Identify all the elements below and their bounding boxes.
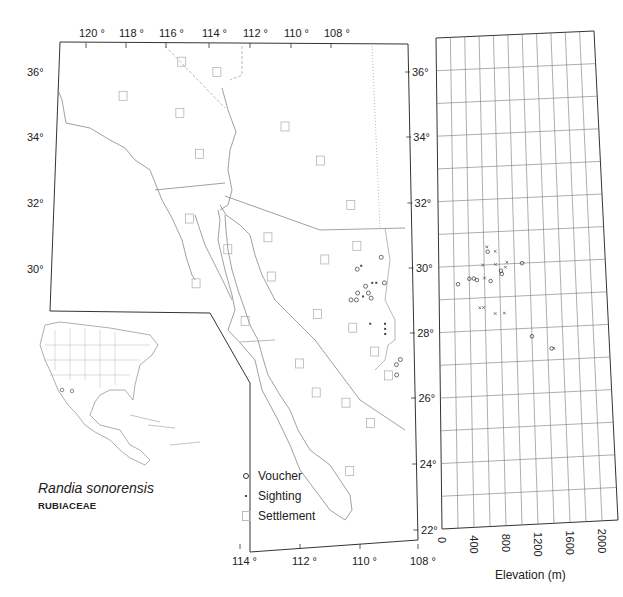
inset-outline [40,322,158,465]
inset-north-america-map [40,322,200,465]
settlement-marker [321,255,329,264]
voucher-marker [379,255,383,259]
sighting-marker [503,312,506,315]
settlement-marker [281,122,289,131]
settlement-marker [195,149,203,158]
longitude-label: 108 ° [410,555,436,567]
elevation-grid [436,31,618,529]
settlement-marker [342,398,350,407]
sighting-marker [504,266,507,269]
inset-state-lines [45,328,150,388]
voucher-circle-icon [238,473,254,479]
latitude-label: 30° [416,262,433,274]
voucher-marker [355,267,359,271]
longitude-label: 118 ° [119,27,144,39]
distribution-figure: 120 °118 °116 °114 °112 °110 °108 ° 114 … [0,0,623,597]
latitude-label: 36° [412,66,429,78]
top-longitude-labels: 120 °118 °116 °114 °112 °110 °108 ° [79,27,350,48]
latitude-label: 30° [27,263,44,275]
legend-item-voucher: Voucher [238,466,315,486]
longitude-label: 116 ° [159,27,184,39]
voucher-marker [395,373,399,377]
settlement-marker [353,241,361,250]
voucher-marker [486,250,490,254]
sonora-chihuahua-border [375,228,395,370]
voucher-marker [489,279,493,283]
legend-item-sighting: Sighting [238,486,315,506]
sighting-marker [506,261,509,264]
voucher-marker [456,282,460,286]
sighting-marker [553,347,556,350]
voucher-marker [366,291,370,295]
voucher-marker [398,358,402,362]
elevation-tick-label: 400 [468,535,480,553]
sighting-marker [360,265,362,267]
latitude-label: 34° [413,131,430,143]
settlement-marker [371,347,379,356]
legend-item-settlement: Settlement [238,506,315,526]
bottom-longitude-labels: 114 °112 °110 °108 ° [232,544,436,567]
voucher-marker [369,296,373,300]
sighting-marker [375,282,377,284]
voucher-marker [356,291,360,295]
settlement-square-icon [238,511,254,521]
legend-label: Voucher [258,469,302,483]
longitude-label: 108 ° [324,27,350,39]
utah-arizona-border [230,46,242,80]
inset-voucher [60,388,64,392]
legend-label: Sighting [258,489,301,503]
latitude-label: 34° [27,131,44,143]
settlement-marker [346,466,354,475]
sighting-marker [384,333,386,335]
sighting-marker [494,312,497,315]
family-name: RUBIACEAE [38,500,96,511]
elevation-axis-label: Elevation (m) [495,568,566,582]
elevation-tick-label: 1200 [532,532,544,556]
sighting-marker [482,306,485,309]
baja-state-border [240,340,275,342]
elevation-tick-label: 800 [500,534,512,552]
sighting-marker [485,246,488,249]
voucher-marker [364,284,368,288]
latitude-label: 32° [27,197,44,209]
elevation-tick-label: 2000 [596,529,608,553]
left-latitude-labels: 36°34°32°30° [27,66,44,275]
colorado-river-border [220,88,236,210]
elevation-tick-label: 1600 [564,530,576,554]
voucher-marker [354,298,358,302]
sighting-marker [371,282,373,284]
settlement-marker [267,272,275,281]
pacific-coastline [58,90,195,280]
sighting-dot-icon [238,495,254,497]
inset-voucher [70,389,74,393]
longitude-label: 112 ° [243,27,268,39]
latitude-label: 24° [420,458,437,470]
elevation-tick-labels: 0400800120016002000 [436,529,608,557]
settlement-marker [176,108,184,117]
settlement-marker [314,310,322,319]
longitude-label: 110 ° [284,27,309,39]
longitude-label: 120 ° [79,27,105,39]
settlement-marker [264,233,272,242]
settlement-marker [312,388,320,397]
sighting-marker [494,250,497,253]
longitude-label: 114 ° [232,555,257,567]
elevation-chart: 0400800120016002000 [436,31,618,557]
settlement-marker [213,67,221,76]
longitude-label: 114 ° [202,27,227,39]
sighting-marker [384,323,386,325]
settlement-marker [186,214,194,223]
elevation-tick-label: 0 [436,537,448,543]
settlement-marker [385,371,393,380]
settlement-marker [178,57,186,66]
settlement-marker [192,279,200,288]
settlement-marker [366,419,374,428]
voucher-marker [382,281,386,285]
settlement-marker [349,323,357,332]
longitude-label: 110 ° [352,555,377,567]
inset-caribbean [130,415,200,445]
sighting-marker [362,295,364,297]
voucher-marker [394,363,398,367]
sighting-marker [369,323,371,325]
latitude-label: 28° [417,327,434,339]
